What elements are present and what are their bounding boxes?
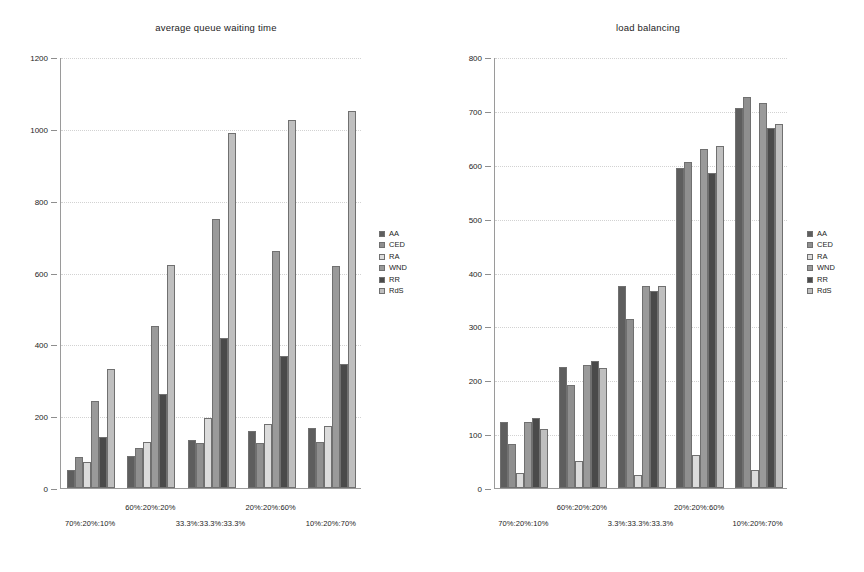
bar-wnd[interactable]	[524, 422, 532, 488]
y-axis-tick-label: 1200	[30, 54, 48, 63]
bar-aa[interactable]	[559, 367, 567, 488]
bar-aa[interactable]	[248, 431, 256, 488]
y-axis-tick-label: 400	[35, 341, 48, 350]
bar-rr[interactable]	[280, 356, 288, 488]
y-axis-tick	[485, 58, 491, 59]
x-axis-tick-label: 60%:20%:20%	[125, 503, 175, 512]
bar-rds[interactable]	[288, 120, 296, 488]
legend-left: AACEDRAWNDRRRdS	[379, 228, 407, 297]
bar-ra[interactable]	[324, 426, 332, 488]
legend-swatch-icon	[807, 242, 813, 248]
bar-rr[interactable]	[340, 364, 348, 488]
bar-ced[interactable]	[508, 444, 516, 488]
legend-item-ced[interactable]: CED	[379, 240, 407, 251]
bar-wnd[interactable]	[151, 326, 159, 488]
y-axis-tick	[485, 327, 491, 328]
y-axis-tick-label: 300	[469, 323, 482, 332]
bar-wnd[interactable]	[759, 103, 767, 488]
bar-aa[interactable]	[308, 428, 316, 488]
x-axis-tick-label: 70%:20%:10%	[498, 519, 548, 528]
bar-ced[interactable]	[135, 448, 143, 488]
bar-ra[interactable]	[516, 473, 524, 488]
bar-rds[interactable]	[658, 286, 666, 488]
bar-rr[interactable]	[159, 394, 167, 488]
bar-ra[interactable]	[83, 462, 91, 488]
bar-rds[interactable]	[107, 369, 115, 488]
bar-rds[interactable]	[228, 133, 236, 488]
bar-ra[interactable]	[751, 470, 759, 488]
bar-ced[interactable]	[567, 385, 575, 488]
y-axis-tick	[51, 274, 57, 275]
bar-ra[interactable]	[634, 475, 642, 488]
x-axis-tick-label: 20%:20%:60%	[674, 503, 724, 512]
legend-item-ra[interactable]: RA	[807, 251, 835, 262]
bar-group	[67, 58, 115, 488]
legend-item-rds[interactable]: RdS	[807, 286, 835, 297]
legend-item-wnd[interactable]: WND	[807, 263, 835, 274]
bar-ced[interactable]	[626, 319, 634, 488]
bar-aa[interactable]	[618, 286, 626, 488]
legend-item-rr[interactable]: RR	[807, 274, 835, 285]
legend-item-ced[interactable]: CED	[807, 240, 835, 251]
bar-ra[interactable]	[204, 418, 212, 488]
legend-item-aa[interactable]: AA	[379, 228, 407, 239]
bar-aa[interactable]	[676, 168, 684, 488]
bar-ced[interactable]	[316, 442, 324, 488]
legend-item-aa[interactable]: AA	[807, 228, 835, 239]
bar-ra[interactable]	[692, 455, 700, 488]
bar-rr[interactable]	[99, 437, 107, 488]
bar-ra[interactable]	[575, 461, 583, 488]
bar-rr[interactable]	[767, 128, 775, 488]
chart-title-left: average queue waiting time	[0, 22, 432, 33]
bar-aa[interactable]	[735, 108, 743, 488]
bar-rr[interactable]	[220, 338, 228, 488]
bar-rds[interactable]	[716, 146, 724, 488]
bar-wnd[interactable]	[642, 286, 650, 488]
bar-wnd[interactable]	[272, 251, 280, 488]
bar-ced[interactable]	[75, 457, 83, 488]
bar-wnd[interactable]	[583, 365, 591, 488]
bar-ra[interactable]	[143, 442, 151, 488]
bar-ced[interactable]	[196, 443, 204, 488]
y-axis-tick	[51, 130, 57, 131]
y-axis-tick	[51, 58, 57, 59]
x-axis-tick-label: 10%:20%:70%	[733, 519, 783, 528]
bar-rds[interactable]	[599, 368, 607, 488]
bar-aa[interactable]	[67, 470, 75, 488]
y-axis-tick-label: 200	[469, 377, 482, 386]
bar-wnd[interactable]	[332, 266, 340, 488]
bar-rr[interactable]	[708, 173, 716, 488]
x-axis-tick-label: 70%:20%:10%	[65, 519, 115, 528]
bar-ra[interactable]	[264, 424, 272, 488]
bar-aa[interactable]	[500, 422, 508, 488]
chart-title-right: load balancing	[432, 22, 864, 33]
y-axis-tick	[51, 345, 57, 346]
legend-swatch-icon	[379, 254, 385, 260]
bar-rr[interactable]	[532, 418, 540, 488]
bar-rds[interactable]	[775, 124, 783, 488]
bar-rds[interactable]	[540, 429, 548, 488]
legend-item-rr[interactable]: RR	[379, 274, 407, 285]
legend-item-ra[interactable]: RA	[379, 251, 407, 262]
legend-item-wnd[interactable]: WND	[379, 263, 407, 274]
legend-label: WND	[389, 264, 407, 272]
bar-rds[interactable]	[348, 111, 356, 488]
legend-swatch-icon	[807, 265, 813, 271]
bar-ced[interactable]	[743, 97, 751, 488]
bar-wnd[interactable]	[91, 401, 99, 488]
bar-rds[interactable]	[167, 265, 175, 488]
bar-ced[interactable]	[684, 162, 692, 488]
legend-item-rds[interactable]: RdS	[379, 286, 407, 297]
bar-rr[interactable]	[650, 291, 658, 488]
y-axis-tick-label: 0	[44, 485, 48, 494]
bar-wnd[interactable]	[700, 149, 708, 488]
legend-label: CED	[389, 241, 405, 249]
bar-aa[interactable]	[188, 440, 196, 488]
legend-swatch-icon	[379, 231, 385, 237]
bar-aa[interactable]	[127, 456, 135, 488]
bar-rr[interactable]	[591, 361, 599, 488]
bar-group	[188, 58, 236, 488]
legend-swatch-icon	[807, 254, 813, 260]
bar-wnd[interactable]	[212, 219, 220, 488]
bar-ced[interactable]	[256, 443, 264, 488]
